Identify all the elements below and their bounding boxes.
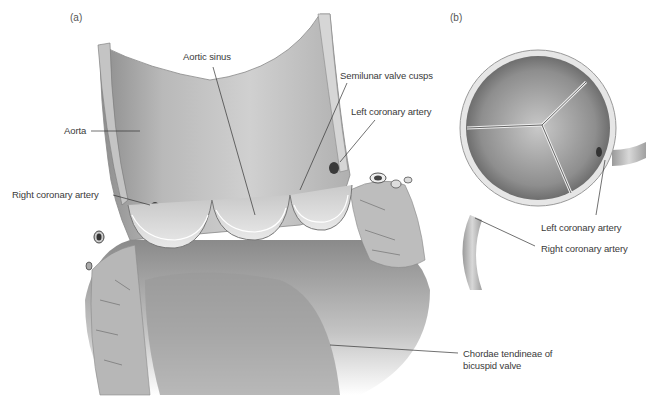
label-right-coronary-artery-b: Right coronary artery	[541, 243, 628, 255]
left-coronary-vessel	[612, 142, 646, 166]
label-left-coronary-artery-a: Left coronary artery	[351, 106, 431, 118]
label-aortic-sinus: Aortic sinus	[183, 51, 231, 63]
label-semilunar-valve-cusps: Semilunar valve cusps	[340, 70, 433, 82]
panel-label-a: (a)	[70, 12, 82, 23]
right-coronary-vessel	[463, 215, 483, 290]
heart-valve-diagram: (a) (b) Aortic sinus Semilunar valve cus…	[0, 0, 646, 398]
label-right-coronary-artery-a: Right coronary artery	[12, 189, 99, 201]
label-chordae-tendineae-line2: bicuspid valve	[463, 360, 521, 372]
label-chordae-tendineae-line1: Chordae tendineae of	[463, 348, 552, 360]
label-left-coronary-artery-b: Left coronary artery	[541, 222, 621, 234]
panel-label-b: (b)	[450, 12, 462, 23]
left-coronary-ostium	[329, 162, 339, 174]
label-aorta: Aorta	[64, 125, 86, 137]
